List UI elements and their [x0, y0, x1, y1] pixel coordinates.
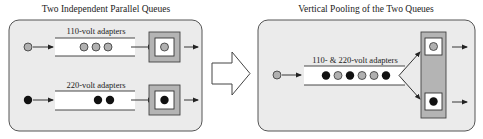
pooled-queue-label: 110- & 220-volt adapters	[312, 55, 397, 65]
waiting-item-gray	[358, 72, 366, 80]
waiting-item-gray	[92, 43, 100, 51]
waiting-item-black	[94, 96, 102, 104]
waiting-item-black	[346, 71, 354, 79]
waiting-item-gray	[80, 43, 88, 51]
arrival-item-black	[24, 96, 32, 104]
queue-label: 220-volt adapters	[66, 80, 125, 90]
waiting-item-black	[106, 96, 114, 104]
right-block-arrow-icon	[212, 52, 250, 95]
in-service-item-black	[160, 96, 168, 104]
arrival-item-gray	[273, 71, 281, 79]
pooling-diagram: Two Independent Parallel Queues 110-volt…	[0, 0, 483, 139]
left-panel: Two Independent Parallel Queues 110-volt…	[9, 4, 202, 131]
in-service-item-gray	[161, 43, 169, 51]
waiting-item-gray	[104, 43, 112, 51]
right-panel-title: Vertical Pooling of the Two Queues	[298, 4, 434, 14]
in-service-item-black	[429, 97, 437, 105]
queue-label: 110-volt adapters	[67, 26, 126, 36]
waiting-item-black	[382, 71, 390, 79]
right-panel: Vertical Pooling of the Two Queues 110- …	[258, 4, 475, 131]
left-panel-title: Two Independent Parallel Queues	[42, 4, 171, 14]
waiting-item-gray	[334, 72, 342, 80]
arrival-item-gray	[24, 43, 32, 51]
in-service-item-gray	[430, 43, 438, 51]
waiting-item-black	[322, 71, 330, 79]
waiting-item-gray	[370, 72, 378, 80]
